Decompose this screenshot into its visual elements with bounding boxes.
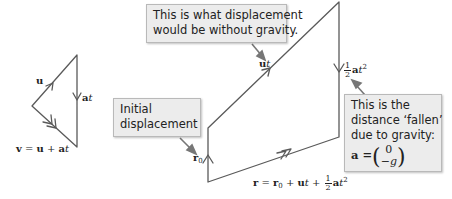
label-text: + — [44, 143, 59, 154]
label-text: 2 — [344, 71, 351, 79]
label-text: u — [37, 143, 44, 154]
gravity-lhs: a = — [351, 148, 372, 162]
callout-text: This is what displacement — [153, 8, 280, 23]
callout-text: distance ‘fallen’ — [351, 113, 435, 128]
label-text: u — [298, 177, 305, 188]
label-at: at — [82, 92, 93, 103]
label-half-at2: 12at2 — [343, 62, 367, 79]
label-text: t — [65, 143, 69, 154]
pointer-fallen-icon — [352, 80, 361, 88]
callout-initial-displacement: Initial displacement — [113, 98, 201, 137]
callout-no-gravity: This is what displacement would be witho… — [146, 4, 287, 43]
callout-text: Initial — [120, 102, 194, 117]
label-text: t — [266, 58, 270, 69]
label-r0: r0 — [193, 152, 203, 165]
velocity-triangle — [32, 55, 77, 147]
label-text: + — [309, 177, 324, 188]
callout-text: due to gravity: — [351, 128, 435, 143]
label-ut: ut — [259, 58, 270, 69]
label-text: 2 — [363, 63, 367, 71]
callout-text: This is the — [351, 98, 435, 113]
label-text: = — [22, 143, 37, 154]
label-text: 2 — [325, 184, 332, 192]
label-text: 0 — [198, 157, 202, 165]
label-v-equation: v = u + at — [16, 143, 69, 154]
label-text: 2 — [343, 176, 347, 184]
label-u: u — [36, 75, 43, 86]
callout-text: displacement — [120, 117, 194, 132]
label-text: t — [88, 92, 92, 103]
gravity-vector: a =(0−g) — [351, 144, 435, 168]
label-text: = — [258, 177, 273, 188]
callout-fallen-distance: This is the distance ‘fallen’ due to gra… — [344, 94, 442, 172]
label-r-equation: r = r0 + ut + 12at2 — [253, 175, 348, 192]
callout-text: would be without gravity. — [153, 23, 280, 38]
label-text: + — [283, 177, 298, 188]
vector-bottom: −g — [381, 156, 397, 168]
label-text: u — [36, 75, 43, 86]
